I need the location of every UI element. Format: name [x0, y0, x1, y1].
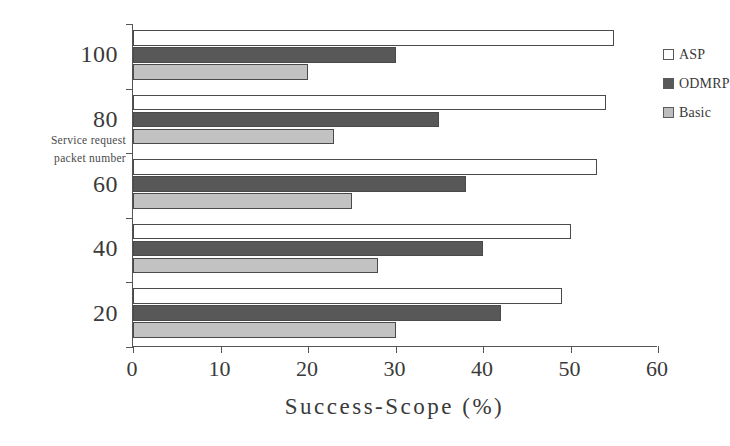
- y-tick-mark-2: [126, 153, 133, 154]
- bar-odmrp-60: [133, 176, 466, 192]
- legend-swatch-basic-icon: [663, 107, 674, 118]
- y-axis-title-line-1: Service request: [6, 132, 126, 150]
- y-tick-mark-3: [126, 218, 133, 219]
- legend-swatch-asp-icon: [663, 49, 674, 60]
- bar-group-20: [133, 282, 657, 347]
- legend-item-basic[interactable]: Basic: [663, 98, 717, 127]
- x-tick-mark-30: [396, 346, 397, 353]
- x-tick-mark-40: [483, 346, 484, 353]
- bar-basic-100: [133, 64, 308, 80]
- bar-odmrp-40: [133, 241, 483, 257]
- x-tick-label-50: 50: [559, 358, 581, 380]
- x-tick-label-40: 40: [471, 358, 493, 380]
- bar-odmrp-100: [133, 47, 396, 63]
- y-tick-mark-0: [126, 24, 133, 25]
- x-tick-mark-0: [133, 346, 134, 353]
- bar-group-60: [133, 153, 657, 218]
- x-tick-label-10: 10: [209, 358, 231, 380]
- legend-swatch-odmrp-icon: [663, 78, 674, 89]
- bar-asp-80: [133, 95, 606, 111]
- x-tick-mark-10: [221, 346, 222, 353]
- bar-group-40: [133, 218, 657, 283]
- x-tick-mark-20: [308, 346, 309, 353]
- x-tick-mark-50: [571, 346, 572, 353]
- y-tick-label-80: 80: [0, 107, 118, 131]
- legend-item-asp[interactable]: ASP: [663, 40, 717, 69]
- bar-group-100: [133, 24, 657, 89]
- bar-basic-40: [133, 258, 378, 274]
- x-tick-label-60: 60: [646, 358, 668, 380]
- y-axis-title: Service request packet number: [6, 132, 126, 168]
- bar-basic-60: [133, 193, 352, 209]
- legend-label-odmrp: ODMRP: [679, 76, 730, 92]
- bar-asp-60: [133, 159, 597, 175]
- x-axis-title: Success-Scope (%): [132, 394, 657, 420]
- legend-label-basic: Basic: [679, 105, 711, 121]
- x-tick-label-30: 30: [384, 358, 406, 380]
- chart-legend: ASPODMRPBasic: [663, 40, 717, 127]
- bar-asp-20: [133, 288, 562, 304]
- bar-group-80: [133, 89, 657, 154]
- bar-asp-40: [133, 224, 571, 240]
- bar-odmrp-20: [133, 305, 501, 321]
- bar-basic-80: [133, 129, 334, 145]
- gridline-60: [658, 24, 659, 346]
- y-axis-title-line-2: packet number: [6, 150, 126, 168]
- y-tick-mark-5: [126, 347, 133, 348]
- y-tick-label-20: 20: [0, 301, 118, 325]
- bar-odmrp-80: [133, 112, 439, 128]
- x-tick-label-0: 0: [127, 358, 138, 380]
- y-tick-label-60: 60: [0, 172, 118, 196]
- legend-label-asp: ASP: [679, 47, 705, 63]
- legend-item-odmrp[interactable]: ODMRP: [663, 69, 717, 98]
- bar-basic-20: [133, 322, 396, 338]
- x-tick-label-20: 20: [296, 358, 318, 380]
- y-tick-label-40: 40: [0, 236, 118, 260]
- bar-asp-100: [133, 30, 614, 46]
- y-tick-mark-4: [126, 282, 133, 283]
- y-tick-mark-1: [126, 89, 133, 90]
- plot-area: [132, 24, 657, 347]
- y-tick-label-100: 100: [0, 42, 118, 66]
- x-tick-mark-60: [658, 346, 659, 353]
